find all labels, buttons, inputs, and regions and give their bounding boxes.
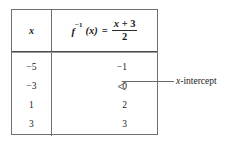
annotation-leader-line — [122, 81, 174, 82]
table-row: −3 0 — [12, 76, 157, 95]
left-arrow-icon — [117, 77, 126, 86]
header-separator-rule — [12, 51, 157, 52]
table-row: −5 −1 — [12, 57, 157, 76]
function-argument: (x) — [86, 25, 98, 36]
table-row: 1 2 — [12, 95, 157, 114]
fraction-numerator: x + 3 — [112, 19, 138, 31]
function-name: f−1 — [72, 24, 83, 37]
fraction-denominator: 2 — [122, 31, 127, 43]
cell-y-value: 2 — [51, 100, 157, 110]
table-row: 3 3 — [12, 114, 157, 133]
cell-y-value: 0 — [51, 81, 157, 91]
equals-sign: = — [101, 25, 109, 36]
x-intercept-annotation-label: x-intercept — [176, 75, 217, 88]
cell-x-value: −5 — [12, 62, 51, 72]
cell-x-value: 3 — [12, 119, 51, 129]
cell-x-value: 1 — [12, 100, 51, 110]
annotation-suffix: -intercept — [180, 76, 216, 86]
cell-y-value: −1 — [51, 62, 157, 72]
table-body: −5 −1 −3 0 1 2 3 3 — [12, 53, 157, 134]
cell-x-value: −3 — [12, 81, 51, 91]
cell-y-value: 3 — [51, 119, 157, 129]
header-cell-inverse-function: f−1(x) = x + 3 2 — [52, 10, 157, 51]
header-cell-x: x — [12, 10, 51, 51]
function-value-table: x f−1(x) = x + 3 2 −5 −1 −3 0 1 2 — [11, 9, 158, 135]
header-x-label: x — [29, 25, 34, 36]
inverse-function-table-figure: x f−1(x) = x + 3 2 −5 −1 −3 0 1 2 — [0, 0, 234, 146]
inverse-exponent: −1 — [75, 21, 83, 29]
fraction: x + 3 2 — [112, 19, 138, 43]
